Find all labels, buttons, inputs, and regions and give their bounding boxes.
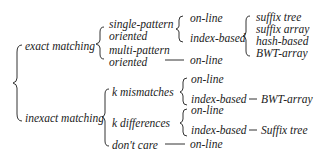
- node-k-mismatches: k mismatches: [112, 86, 174, 98]
- node-inexact-matching: inexact matching: [25, 112, 104, 124]
- node-dont-care: don't care: [112, 139, 158, 151]
- node-single-pattern: single-pattern: [109, 18, 174, 30]
- node-single-pattern-oriented: oriented: [109, 30, 147, 42]
- node-sp-online: on-line: [190, 12, 223, 24]
- leaf-suffix-tree: suffix tree: [256, 11, 301, 23]
- root-brace: [13, 45, 22, 121]
- node-kd-index-based: index-based: [191, 124, 247, 136]
- node-km-online: on-line: [191, 73, 224, 85]
- node-multi-pattern-oriented: oriented: [109, 56, 147, 68]
- node-exact-matching: exact matching: [25, 40, 95, 52]
- node-kd-online: on-line: [191, 104, 224, 116]
- node-sp-index-based: index-based: [190, 32, 246, 44]
- leaf-hash-based: hash-based: [256, 35, 308, 47]
- km-brace: [180, 78, 187, 105]
- kd-brace: [180, 109, 187, 136]
- leaf-kd-suffix-tree: Suffix tree: [261, 124, 308, 136]
- node-k-differences: k differences: [112, 117, 170, 129]
- exact-brace: [96, 27, 104, 59]
- node-multi-pattern: multi-pattern: [109, 44, 170, 56]
- leaf-bwt-array: BWT-array: [256, 47, 308, 59]
- leaf-km-bwt-array: BWT-array: [261, 93, 313, 105]
- single-brace: [176, 16, 183, 42]
- node-mp-online: on-line: [190, 54, 223, 66]
- node-dc-online: on-line: [190, 138, 223, 150]
- leaf-suffix-array: suffix array: [256, 23, 309, 35]
